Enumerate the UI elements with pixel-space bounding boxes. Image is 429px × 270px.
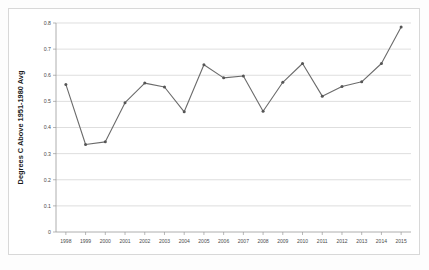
x-tick-label: 2001 — [119, 238, 130, 244]
x-tick-label: 2010 — [297, 238, 308, 244]
y-axis-tick-labels: 00.10.20.30.40.50.60.70.8 — [44, 20, 51, 235]
data-point-marker[interactable] — [84, 143, 87, 146]
x-tick-label: 2014 — [376, 238, 387, 244]
x-tick-label: 2009 — [277, 238, 288, 244]
y-axis-title: Degrees C Above 1951-1980 Avg — [16, 70, 25, 184]
x-tick-label: 1999 — [80, 238, 91, 244]
line-chart[interactable]: 00.10.20.30.40.50.60.70.8 19981999200020… — [9, 9, 419, 254]
x-tick-label: 2011 — [317, 238, 328, 244]
data-point-marker[interactable] — [242, 75, 245, 78]
x-tick-label: 2013 — [356, 238, 367, 244]
data-point-marker[interactable] — [163, 86, 166, 89]
data-series-line[interactable] — [66, 27, 401, 145]
data-point-marker[interactable] — [222, 76, 225, 79]
y-tick-label: 0.6 — [44, 72, 51, 78]
data-point-marker[interactable] — [400, 25, 403, 28]
y-tick-label: 0.4 — [44, 124, 51, 130]
y-tick-label: 0.8 — [44, 20, 51, 26]
y-tick-label: 0.5 — [44, 98, 51, 104]
x-tick-label: 2007 — [238, 238, 249, 244]
y-tick-label: 0.2 — [44, 177, 51, 183]
data-point-marker[interactable] — [143, 82, 146, 85]
x-tick-label: 2005 — [198, 238, 209, 244]
chart-figure: 00.10.20.30.40.50.60.70.8 19981999200020… — [0, 0, 429, 270]
data-point-marker[interactable] — [380, 62, 383, 65]
x-tick-label: 2000 — [100, 238, 111, 244]
y-tick-label: 0.1 — [44, 203, 51, 209]
data-point-marker[interactable] — [281, 81, 284, 84]
x-tick-label: 1998 — [60, 238, 71, 244]
x-tick-label: 2003 — [159, 238, 170, 244]
y-tick-marks-group — [53, 23, 56, 232]
x-tick-label: 2002 — [139, 238, 150, 244]
x-axis-tick-labels: 1998199920002001200220032004200520062007… — [60, 238, 407, 244]
y-tick-label: 0.3 — [44, 151, 51, 157]
data-point-marker[interactable] — [262, 110, 265, 113]
x-tick-label: 2006 — [218, 238, 229, 244]
gridlines-group — [56, 23, 411, 206]
x-tick-label: 2015 — [396, 238, 407, 244]
data-point-marker[interactable] — [301, 62, 304, 65]
y-tick-label: 0.7 — [44, 46, 51, 52]
chart-frame: 00.10.20.30.40.50.60.70.8 19981999200020… — [8, 8, 420, 255]
x-tick-marks-group — [66, 232, 401, 235]
data-point-marker[interactable] — [64, 83, 67, 86]
data-point-marker[interactable] — [360, 80, 363, 83]
y-tick-label: 0 — [48, 229, 51, 235]
x-tick-label: 2004 — [179, 238, 190, 244]
x-tick-label: 2012 — [336, 238, 347, 244]
data-point-marker[interactable] — [321, 95, 324, 98]
data-point-marker[interactable] — [202, 63, 205, 66]
data-point-markers[interactable] — [64, 25, 402, 146]
data-point-marker[interactable] — [104, 140, 107, 143]
data-point-marker[interactable] — [340, 85, 343, 88]
data-point-marker[interactable] — [183, 110, 186, 113]
data-point-marker[interactable] — [124, 101, 127, 104]
x-tick-label: 2008 — [258, 238, 269, 244]
